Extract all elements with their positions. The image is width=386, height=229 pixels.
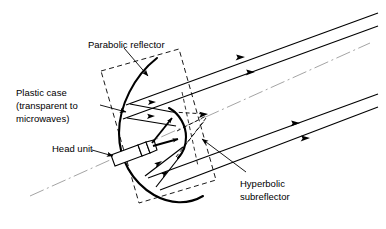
- label-plastic-case-line3: microwaves): [16, 113, 69, 124]
- label-hyperbolic-line1: Hyperbolic: [240, 178, 285, 189]
- label-plastic-case-line1: Plastic case: [16, 87, 67, 98]
- diagram-canvas: Parabolic reflector Plastic case (transp…: [0, 0, 386, 229]
- label-hyperbolic-line2: subreflector: [240, 191, 290, 202]
- label-head-unit: Head unit: [52, 143, 93, 154]
- antenna-diagram-svg: Parabolic reflector Plastic case (transp…: [0, 0, 386, 229]
- label-plastic-case-line2: (transparent to: [16, 100, 78, 111]
- label-parabolic-reflector: Parabolic reflector: [88, 39, 165, 50]
